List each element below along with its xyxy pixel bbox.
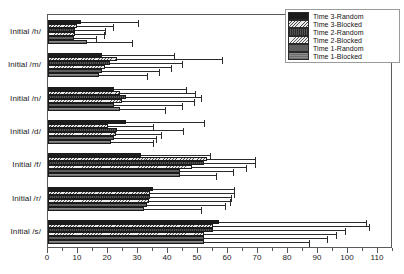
error-bar xyxy=(74,38,97,39)
bar xyxy=(48,107,120,111)
error-bar xyxy=(102,55,174,56)
x-axis-tick xyxy=(212,248,213,251)
error-bar xyxy=(204,234,336,235)
bar-row xyxy=(48,240,391,244)
legend-item: Time 2-Random xyxy=(288,28,396,36)
legend-item: Time 2-Blocked xyxy=(288,36,396,44)
bar-group xyxy=(48,149,391,182)
x-axis-tick xyxy=(182,248,183,251)
error-bar xyxy=(219,222,366,223)
error-bar xyxy=(117,130,183,131)
error-bar xyxy=(153,189,234,190)
x-axis-tick xyxy=(152,248,153,251)
legend-item: Time 1-Blocked xyxy=(288,52,396,60)
bar-row xyxy=(48,207,391,211)
error-bar xyxy=(114,138,156,139)
bar-group xyxy=(48,216,391,249)
x-axis-tick xyxy=(242,248,243,251)
error-bar xyxy=(120,109,165,110)
legend-label: Time 2-Random xyxy=(313,29,364,36)
bar xyxy=(48,40,87,44)
bar-row xyxy=(48,140,391,144)
error-bar xyxy=(77,26,113,27)
x-axis-tick-label: 70 xyxy=(252,253,261,262)
error-bar xyxy=(147,205,225,206)
bar-row xyxy=(48,107,391,111)
legend-swatch-icon xyxy=(288,28,309,36)
error-bar xyxy=(141,155,210,156)
error-bar xyxy=(207,159,255,160)
error-bar xyxy=(126,97,201,98)
error-bar xyxy=(81,22,138,23)
error-bar xyxy=(105,67,171,68)
y-axis-label: Initial /m/ xyxy=(8,60,41,69)
error-bar xyxy=(192,167,246,168)
x-axis-tick-label: 50 xyxy=(192,253,201,262)
error-bar xyxy=(204,163,255,164)
error-bar xyxy=(204,242,309,243)
x-axis-tick-label: 60 xyxy=(222,253,231,262)
error-bar xyxy=(75,30,105,31)
x-axis-tick xyxy=(272,248,273,251)
bar xyxy=(48,240,204,244)
x-axis-tick-label: 40 xyxy=(162,253,171,262)
error-bar xyxy=(213,230,345,231)
error-bar xyxy=(120,93,195,94)
y-axis-label: Initial /d/ xyxy=(10,127,41,136)
error-bar xyxy=(116,134,161,135)
legend-label: Time 3-Random xyxy=(313,13,364,20)
x-axis-tick-label: 80 xyxy=(282,253,291,262)
bar xyxy=(48,140,111,144)
error-bar xyxy=(87,42,132,43)
error-bar xyxy=(99,75,147,76)
y-axis-labels: Initial /h/Initial /m/Initial /n/Initial… xyxy=(0,14,45,248)
y-axis-label: Initial /r/ xyxy=(12,193,41,202)
legend-label: Time 2-Blocked xyxy=(313,37,362,44)
legend-swatch-icon xyxy=(288,20,309,28)
y-axis-label: Initial /s/ xyxy=(11,227,41,236)
bar-row xyxy=(48,73,391,77)
y-axis-label: Initial /h/ xyxy=(10,26,41,35)
error-bar xyxy=(144,209,201,210)
bar-row xyxy=(48,173,391,177)
legend-label: Time 3-Blocked xyxy=(313,21,362,28)
error-bar xyxy=(204,238,327,239)
error-bar xyxy=(111,142,153,143)
error-bar xyxy=(102,71,159,72)
error-bar-cap xyxy=(132,40,133,47)
legend-item: Time 3-Random xyxy=(288,12,396,20)
x-axis-tick xyxy=(332,248,333,251)
error-bar-cap xyxy=(165,107,166,114)
x-axis-tick xyxy=(392,248,393,251)
x-axis-labels: 0102030405060708090100110 xyxy=(0,253,404,267)
chart-root: Initial /h/Initial /m/Initial /n/Initial… xyxy=(0,0,404,274)
error-bar xyxy=(108,126,153,127)
error-bar xyxy=(150,193,234,194)
error-bar-cap xyxy=(216,173,217,180)
error-bar xyxy=(110,63,182,64)
legend-item: Time 1-Random xyxy=(288,44,396,52)
x-axis-tick-label: 20 xyxy=(102,253,111,262)
error-bar-cap xyxy=(309,240,310,247)
x-axis-tick-label: 100 xyxy=(340,253,354,262)
x-axis-tick-label: 30 xyxy=(132,253,141,262)
error-bar xyxy=(114,105,182,106)
error-bar-cap xyxy=(153,140,154,147)
error-bar xyxy=(126,122,204,123)
error-bar xyxy=(117,59,222,60)
x-axis-tick-label: 90 xyxy=(312,253,321,262)
bar xyxy=(48,173,180,177)
legend-label: Time 1-Blocked xyxy=(313,53,362,60)
x-axis-tick xyxy=(92,248,93,251)
y-axis-label: Initial /f/ xyxy=(12,160,41,169)
error-bar xyxy=(180,171,233,172)
x-axis-tick-label: 10 xyxy=(72,253,81,262)
error-bar xyxy=(213,226,369,227)
error-bar-cap xyxy=(147,73,148,80)
bar-group xyxy=(48,115,391,148)
bar xyxy=(48,207,144,211)
x-axis-tick xyxy=(302,248,303,251)
bar-group xyxy=(48,182,391,215)
bar-group xyxy=(48,82,391,115)
legend-swatch-icon xyxy=(288,12,309,20)
